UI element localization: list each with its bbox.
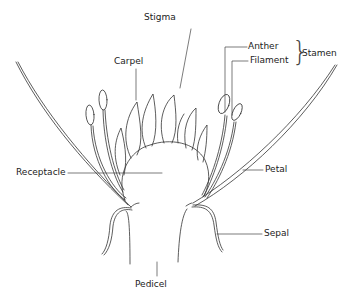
label-receptacle: Receptacle: [16, 168, 66, 177]
label-filament: Filament: [250, 56, 289, 65]
join-left: [131, 203, 139, 207]
filament-leader: [232, 61, 248, 115]
anther-leader: [225, 47, 247, 112]
label-petal: Petal: [265, 165, 287, 174]
flower-diagram: Stigma Carpel Anther Filament } Stamen R…: [0, 0, 354, 297]
sepal-left: [102, 208, 132, 264]
petal-right: [193, 65, 337, 206]
stigma-leader: [180, 29, 191, 88]
sepal-right: [178, 205, 223, 262]
label-carpel: Carpel: [114, 57, 143, 66]
label-anther: Anther: [248, 42, 278, 51]
label-sepal: Sepal: [264, 229, 289, 238]
label-stigma: Stigma: [144, 13, 176, 22]
label-pedicel: Pedicel: [135, 280, 167, 289]
carpels: [115, 94, 207, 175]
receptacle-dome: [122, 142, 209, 200]
join-right: [186, 203, 192, 206]
label-stamen: Stamen: [302, 49, 337, 58]
